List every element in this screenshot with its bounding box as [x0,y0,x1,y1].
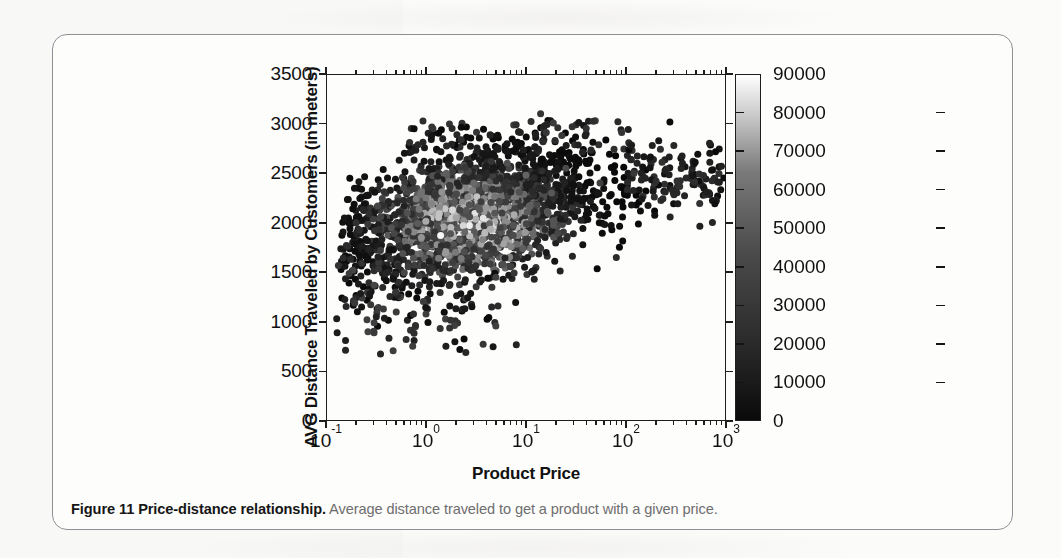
x-tick-minor [473,421,474,425]
x-tick-major [525,421,527,428]
x-tick-minor [386,421,387,425]
x-tick-label: 102 [612,429,640,452]
x-tick-minor [586,421,587,425]
x-tick-minor [516,421,517,425]
colorbar: 0100002000030000400005000060000700008000… [735,74,945,421]
x-tick-top [616,70,617,74]
x-tick-top [686,70,687,74]
x-tick-label: 103 [712,429,740,452]
x-tick-major [425,421,427,428]
y-tick-right [726,123,733,125]
colorbar-tick [735,227,744,229]
y-tick-right [726,222,733,224]
colorbar-tick [735,266,744,268]
x-tick-top [716,70,717,74]
colorbar-tick [735,343,744,345]
x-tick-minor [655,421,656,425]
colorbar-tick-label: 0 [773,410,784,432]
x-tick-top [521,70,522,74]
x-tick-top [721,70,722,74]
colorbar-tick-label: 80000 [773,102,826,124]
x-axis-title: Product Price [472,464,580,484]
x-tick-top [355,70,356,74]
x-tick-top [695,70,696,74]
figure-caption-text: Average distance traveled to get a produ… [326,501,718,517]
figure-caption-title: Figure 11 Price-distance relationship. [71,501,326,517]
x-tick-minor [416,421,417,425]
x-tick-top [386,70,387,74]
y-tick-right [726,271,733,273]
x-tick-top [610,70,611,74]
colorbar-tick [735,112,744,114]
x-tick-minor [555,421,556,425]
x-tick-minor [495,421,496,425]
x-tick-minor [521,421,522,425]
x-tick-top [473,70,474,74]
x-tick-top [710,70,711,74]
x-tick-minor [455,421,456,425]
colorbar-tick-label: 50000 [773,217,826,239]
colorbar-tick-right [936,150,945,152]
y-tick-right [726,73,733,75]
x-tick-minor [603,421,604,425]
x-tick-top [486,70,487,74]
x-tick-minor [503,421,504,425]
figure-caption: Figure 11 Price-distance relationship. A… [71,500,1001,520]
x-tick-top [421,70,422,74]
x-tick-minor [395,421,396,425]
colorbar-gradient [736,75,760,420]
colorbar-tick [735,305,744,307]
x-tick-top [325,67,327,74]
x-tick-top [555,70,556,74]
x-tick-minor [621,421,622,425]
x-tick-top [495,70,496,74]
colorbar-tick-label: 10000 [773,371,826,393]
colorbar-tick [735,382,744,384]
x-tick-label: 101 [512,429,540,452]
colorbar-tick-label: 90000 [773,63,826,85]
scatter-plot-area: 0500100015002000250030003500 10-11001011… [326,74,726,421]
x-tick-top [621,70,622,74]
x-tick-top [416,70,417,74]
y-tick-right [726,420,733,422]
figure-card: 0500100015002000250030003500 10-11001011… [52,34,1013,530]
x-tick-minor [403,421,404,425]
y-tick-right [726,371,733,373]
colorbar-tick [735,150,744,152]
colorbar-tick-right [936,343,945,345]
x-tick-top [455,70,456,74]
x-tick-top [673,70,674,74]
x-tick-minor [710,421,711,425]
x-tick-label: 100 [412,429,440,452]
colorbar-tick-right [936,227,945,229]
colorbar-tick [735,189,744,191]
x-tick-top [573,70,574,74]
x-tick-top [395,70,396,74]
colorbar-tick-label: 30000 [773,294,826,316]
x-tick-minor [510,421,511,425]
colorbar-tick-right [936,305,945,307]
x-tick-minor [610,421,611,425]
x-tick-minor [616,421,617,425]
x-tick-major [725,421,727,428]
x-tick-minor [716,421,717,425]
x-tick-top [603,70,604,74]
x-tick-top [425,67,427,74]
scatter-points-canvas [326,74,726,421]
colorbar-tick-right [936,112,945,114]
y-axis-title: AVG Distance Traveled by Customers (in m… [302,47,322,467]
colorbar-tick-right [936,382,945,384]
x-tick-top [725,67,727,74]
x-tick-minor [486,421,487,425]
colorbar-bar [735,74,761,421]
y-tick-right [726,321,733,323]
colorbar-tick-label: 40000 [773,256,826,278]
x-tick-top [503,70,504,74]
x-tick-top [625,67,627,74]
x-tick-minor [410,421,411,425]
x-tick-top [516,70,517,74]
x-tick-top [410,70,411,74]
colorbar-tick-right [936,189,945,191]
x-tick-top [403,70,404,74]
colorbar-tick-label: 70000 [773,140,826,162]
